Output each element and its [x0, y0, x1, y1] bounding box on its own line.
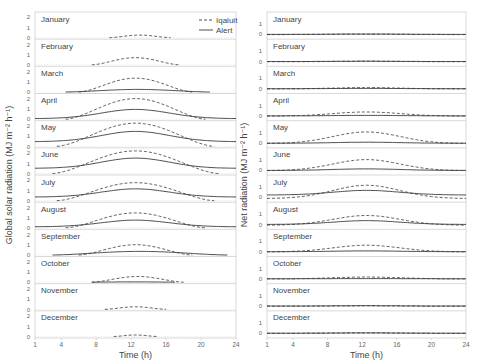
- alert-series-line: [35, 158, 236, 168]
- y-tick-label: 0: [259, 113, 263, 119]
- legend-alert-label: Alert: [216, 26, 233, 35]
- y-tick-label: 2: [27, 232, 31, 238]
- month-label: January: [273, 15, 301, 24]
- month-label: July: [41, 178, 55, 187]
- month-label: February: [41, 42, 73, 51]
- y-tick-label: 2: [27, 286, 31, 292]
- x-tick-label: 1: [265, 341, 269, 348]
- month-label: May: [41, 123, 56, 132]
- month-label: September: [273, 232, 312, 241]
- month-label: June: [41, 150, 59, 159]
- y-tick-label: 2: [27, 42, 31, 48]
- iqaluit-series-line: [57, 183, 214, 201]
- iqaluit-series-line: [79, 245, 193, 255]
- y-tick-label: 1: [27, 324, 31, 330]
- y-tick-label: 1: [259, 130, 263, 136]
- alert-series-line: [35, 109, 236, 118]
- month-label: September: [41, 232, 80, 241]
- y-tick-label: 1: [27, 79, 31, 85]
- y-tick-label: 1: [27, 242, 31, 248]
- y-tick-label: 1: [259, 320, 263, 326]
- y-tick-label: 1: [27, 25, 31, 31]
- y-tick-label: 0: [259, 222, 263, 228]
- y-tick-label: 2: [27, 123, 31, 129]
- y-tick-label: 1: [27, 106, 31, 112]
- y-tick-label: 1: [27, 269, 31, 275]
- alert-series-line: [35, 131, 236, 141]
- month-label: October: [273, 259, 302, 268]
- y-tick-label: 0: [27, 252, 31, 258]
- y-tick-label: 1: [259, 75, 263, 81]
- month-label: June: [273, 150, 291, 159]
- y-tick-label: 2: [27, 313, 31, 319]
- month-label: February: [273, 42, 305, 51]
- month-label: November: [273, 286, 310, 295]
- iqaluit-series-line: [53, 151, 219, 174]
- y-tick-label: 0: [27, 171, 31, 177]
- y-tick-label: 2: [27, 205, 31, 211]
- month-label: August: [41, 205, 67, 214]
- y-tick-label: 0: [27, 225, 31, 231]
- iqaluit-series-line: [66, 99, 206, 120]
- y-tick-label: 1: [27, 188, 31, 194]
- month-label: July: [273, 178, 287, 187]
- x-tick-label: 8: [94, 341, 98, 348]
- radiation-figure: 012January012February012March012April012…: [0, 0, 479, 361]
- x-tick-label: 1: [33, 341, 37, 348]
- legend-iqaluit-label: Iqaluit: [216, 16, 238, 25]
- y-tick-label: 2: [27, 177, 31, 183]
- month-label: April: [41, 96, 57, 105]
- y-tick-label: 1: [259, 184, 263, 190]
- y-tick-label: 1: [27, 296, 31, 302]
- y-tick-label: 0: [259, 330, 263, 336]
- y-tick-label: 1: [27, 161, 31, 167]
- y-tick-label: 2: [27, 69, 31, 75]
- alert-series-line: [267, 115, 466, 116]
- y-tick-label: 0: [27, 279, 31, 285]
- month-label: March: [273, 69, 295, 78]
- y-tick-label: 0: [259, 59, 263, 65]
- x-tick-label: 16: [393, 341, 401, 348]
- x-tick-label: 16: [162, 341, 170, 348]
- y-tick-label: 1: [27, 133, 31, 139]
- y-tick-label: 0: [27, 307, 31, 313]
- month-label: December: [273, 313, 310, 322]
- iqaluit-series-line: [105, 307, 166, 310]
- y-tick-label: 0: [27, 334, 31, 340]
- iqaluit-series-line: [267, 185, 466, 198]
- x-tick-label: 4: [59, 341, 63, 348]
- x-tick-label: 8: [326, 341, 330, 348]
- x-axis-label: Time (h): [350, 350, 383, 360]
- y-tick-label: 0: [27, 116, 31, 122]
- y-tick-label: 2: [27, 259, 31, 265]
- month-label: December: [41, 313, 78, 322]
- y-tick-label: 0: [259, 167, 263, 173]
- iqaluit-series-line: [109, 35, 170, 38]
- y-tick-label: 0: [259, 140, 263, 146]
- month-label: November: [41, 286, 78, 295]
- y-tick-label: 0: [259, 303, 263, 309]
- month-label: October: [41, 259, 70, 268]
- x-axis-label: Time (h): [119, 350, 152, 360]
- alert-series-line: [35, 189, 236, 197]
- y-tick-label: 1: [259, 157, 263, 163]
- month-label: April: [273, 96, 289, 105]
- x-tick-label: 20: [197, 341, 205, 348]
- y-tick-label: 0: [259, 276, 263, 282]
- month-label: August: [273, 205, 299, 214]
- y-tick-label: 0: [27, 198, 31, 204]
- y-tick-label: 1: [259, 103, 263, 109]
- alert-series-line: [66, 89, 210, 92]
- x-tick-label: 24: [232, 341, 240, 348]
- x-tick-label: 4: [291, 341, 295, 348]
- iqaluit-series-line: [267, 132, 466, 144]
- alert-series-line: [53, 251, 228, 255]
- iqaluit-series-line: [92, 58, 179, 65]
- y-tick-label: 1: [259, 211, 263, 217]
- y-tick-label: 0: [27, 62, 31, 68]
- month-label: March: [41, 69, 63, 78]
- alert-series-line: [35, 220, 236, 227]
- iqaluit-series-line: [57, 123, 214, 146]
- iqaluit-series-line: [79, 78, 193, 92]
- y-tick-label: 0: [259, 86, 263, 92]
